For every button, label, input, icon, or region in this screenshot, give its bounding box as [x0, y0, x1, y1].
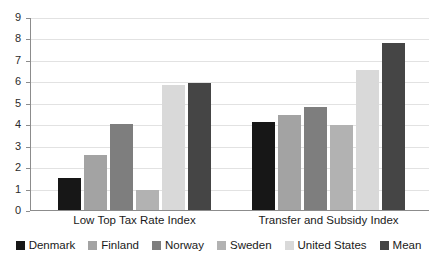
legend-label: Norway	[165, 240, 204, 252]
y-axis-tick-label: 4	[0, 119, 21, 130]
legend-item[interactable]: Denmark	[16, 240, 76, 252]
y-axis-tick-label: 6	[0, 76, 21, 87]
bar	[136, 190, 159, 210]
category-label: Low Top Tax Rate Index	[58, 214, 211, 226]
x-axis-line	[30, 210, 429, 211]
y-axis-tick-mark	[26, 104, 30, 105]
bar	[162, 85, 185, 210]
y-axis-tick-label: 3	[0, 141, 21, 152]
bar-group	[252, 18, 405, 210]
y-axis-tick-mark	[26, 18, 30, 19]
bar	[304, 107, 327, 210]
legend-item[interactable]: Finland	[88, 240, 139, 252]
y-axis-tick-mark	[26, 125, 30, 126]
y-axis-tick-label: 7	[0, 55, 21, 66]
bar	[356, 70, 379, 210]
legend-label: Finland	[101, 240, 139, 252]
y-axis-tick-label: 9	[0, 12, 21, 23]
y-axis-tick-mark	[26, 211, 30, 212]
legend-item[interactable]: United States	[285, 240, 367, 252]
y-axis-line	[30, 18, 31, 211]
y-axis-tick-label: 0	[0, 205, 21, 216]
bar-group	[58, 18, 211, 210]
y-axis-tick-mark	[26, 190, 30, 191]
legend-item[interactable]: Norway	[152, 240, 204, 252]
bar	[278, 115, 301, 210]
legend-swatch-icon	[16, 241, 25, 250]
bar	[110, 124, 133, 210]
bar-chart: 0123456789 Low Top Tax Rate IndexTransfe…	[0, 0, 437, 266]
y-axis-tick-mark	[26, 168, 30, 169]
bar	[58, 178, 81, 210]
bar	[382, 43, 405, 210]
legend-label: United States	[298, 240, 367, 252]
bar	[252, 122, 275, 210]
y-axis-tick-mark	[26, 61, 30, 62]
legend-swatch-icon	[285, 241, 294, 250]
legend-swatch-icon	[380, 241, 389, 250]
bar	[84, 155, 107, 210]
legend-swatch-icon	[152, 241, 161, 250]
y-axis-tick-label: 2	[0, 162, 21, 173]
y-axis-tick-label: 1	[0, 184, 21, 195]
legend-label: Denmark	[29, 240, 76, 252]
legend-item[interactable]: Mean	[380, 240, 422, 252]
y-axis-tick-mark	[26, 147, 30, 148]
legend-swatch-icon	[88, 241, 97, 250]
y-axis-tick-mark	[26, 82, 30, 83]
category-label: Transfer and Subsidy Index	[252, 214, 405, 226]
plot-area	[30, 18, 429, 211]
chart-legend: DenmarkFinlandNorwaySwedenUnited StatesM…	[0, 240, 437, 252]
legend-label: Mean	[393, 240, 422, 252]
y-axis-tick-mark	[26, 39, 30, 40]
legend-swatch-icon	[217, 241, 226, 250]
bar	[188, 83, 211, 210]
y-axis-tick-label: 5	[0, 98, 21, 109]
legend-item[interactable]: Sweden	[217, 240, 272, 252]
y-axis-tick-label: 8	[0, 33, 21, 44]
bar	[330, 125, 353, 210]
legend-label: Sweden	[230, 240, 272, 252]
